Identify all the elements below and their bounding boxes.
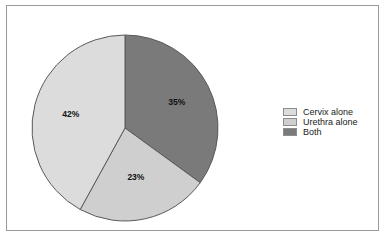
- figure-frame: 35%23%42% Cervix alone Urethra alone Bot…: [6, 5, 379, 231]
- legend-label-urethra-alone: Urethra alone: [303, 117, 358, 127]
- pie-slice-group: [32, 35, 218, 221]
- legend-item-cervix-alone[interactable]: Cervix alone: [283, 107, 383, 117]
- legend-swatch-both: [283, 128, 297, 136]
- legend-swatch-cervix-alone: [283, 108, 297, 116]
- legend-swatch-urethra-alone: [283, 118, 297, 126]
- pie-chart-figure: 35%23%42% Cervix alone Urethra alone Bot…: [0, 0, 390, 237]
- legend-item-both[interactable]: Both: [283, 127, 383, 137]
- legend-label-both: Both: [303, 127, 322, 137]
- pie-value-label-both: 35%: [168, 97, 185, 107]
- legend-label-cervix-alone: Cervix alone: [303, 107, 353, 117]
- pie-chart-area: 35%23%42%: [30, 33, 220, 223]
- pie-chart-svg: 35%23%42%: [30, 33, 220, 223]
- pie-value-label-cervix-alone: 42%: [62, 109, 79, 119]
- chart-legend: Cervix alone Urethra alone Both: [283, 107, 383, 137]
- legend-item-urethra-alone[interactable]: Urethra alone: [283, 117, 383, 127]
- pie-value-label-urethra-alone: 23%: [127, 172, 144, 182]
